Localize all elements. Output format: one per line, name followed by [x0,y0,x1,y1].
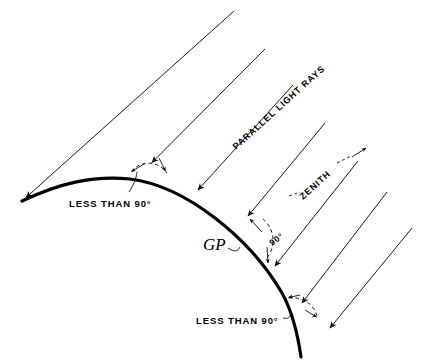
angle-90-label: 90° [267,230,285,247]
ray-4 [248,123,325,216]
label-less-than-90-bottom-group: LESS THAN 90° [196,313,291,326]
zenith-label-group: ZENITH [289,148,366,201]
zenith-arrow [352,148,366,157]
ray-group [26,11,412,328]
less-than-90-top-label: LESS THAN 90° [69,198,152,209]
zenith-label: ZENITH [298,169,333,202]
angle-arc-top-arrow-right [159,158,166,171]
earth-surface-arc [22,178,301,357]
diagram-canvas: LESS THAN 90° LESS THAN 90° 90° GP PARAL… [0,0,426,364]
gp-label: GP [203,235,226,254]
gp-label-group: GP [203,235,240,254]
ray-1 [26,11,234,198]
angle-arc-right-arrow-top [250,219,262,232]
angle-arc-bottom-path [289,298,317,316]
ray-6 [302,192,387,303]
angle-arc-bottom [289,295,318,317]
less-than-90-top-leader [129,172,137,192]
less-than-90-bottom-label: LESS THAN 90° [196,315,279,326]
angle-arc-top [132,158,168,173]
zenith-leader-right [337,156,351,163]
angle-arc-right-arrow-bottom [267,247,268,263]
angle-arc-bottom-arrow-left [289,295,301,298]
light-rays-earth-diagram: LESS THAN 90° LESS THAN 90° 90° GP PARAL… [0,0,426,364]
ray-7 [330,228,412,328]
angle-arc-top-arrow-left [132,164,146,172]
gp-leader [228,247,240,251]
ray-2 [152,49,265,163]
angle-arc-bottom-arrow-right [305,310,317,317]
